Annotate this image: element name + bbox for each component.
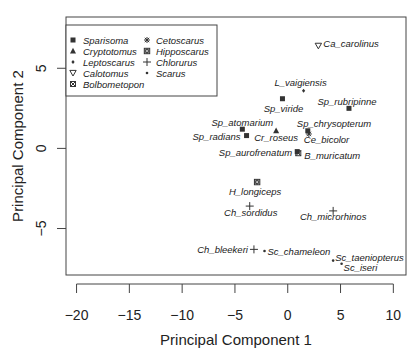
point-label: Ch_sordidus bbox=[224, 207, 278, 218]
point-label: H_longiceps bbox=[229, 186, 282, 197]
x-tick-label: −20 bbox=[65, 307, 89, 323]
dot-marker-icon bbox=[263, 250, 266, 253]
filled-square-legend-icon bbox=[71, 38, 76, 43]
point-label: Sp_radians bbox=[192, 131, 240, 142]
legend-label: Cryptotomus bbox=[83, 46, 137, 57]
point-label: Sp_aurofrenatum bbox=[219, 147, 292, 158]
data-point: Ce_bicolor bbox=[304, 131, 350, 145]
data-point: Sp_aurofrenatum bbox=[219, 147, 300, 158]
point-label: L_vaigiensis bbox=[274, 77, 327, 88]
data-point: Ca_carolinus bbox=[315, 38, 379, 49]
data-point: Sc_chameleon bbox=[263, 246, 330, 257]
legend-label: Sparisoma bbox=[83, 35, 128, 46]
legend-label: Cetoscarus bbox=[156, 35, 204, 46]
x-tick-label: −5 bbox=[227, 307, 243, 323]
legend-label: Leptoscarus bbox=[83, 57, 135, 68]
dot-legend-icon bbox=[146, 72, 149, 75]
point-label: Sp_chrysopterum bbox=[297, 118, 372, 129]
y-tick-label: −5 bbox=[33, 220, 49, 236]
point-label: Ch_microrhinos bbox=[300, 211, 367, 222]
dot-marker-icon bbox=[340, 262, 343, 265]
legend-label: Chlorurus bbox=[156, 57, 197, 68]
point-label: Ch_bleekeri bbox=[197, 244, 249, 255]
dot-marker-icon bbox=[332, 259, 335, 262]
x-tick-label: 5 bbox=[337, 307, 345, 323]
legend-label: Hipposcarus bbox=[156, 46, 209, 57]
point-label: Sp_viride bbox=[264, 103, 304, 114]
x-tick-label: 0 bbox=[284, 307, 292, 323]
y-tick-label: 5 bbox=[33, 64, 49, 72]
point-label: Sc_iseri bbox=[344, 262, 379, 273]
y-tick-label: 0 bbox=[33, 144, 49, 152]
legend-label: Calotomus bbox=[83, 68, 129, 79]
point-label: Sp_atomarium bbox=[211, 117, 273, 128]
point-label: Cr_roseus bbox=[254, 132, 298, 143]
data-point: Sc_iseri bbox=[340, 262, 378, 273]
legend-label: Bolbometopon bbox=[83, 79, 144, 90]
x-tick-label: −10 bbox=[170, 307, 194, 323]
point-label: Ce_bicolor bbox=[304, 134, 350, 145]
point-label: Sc_chameleon bbox=[268, 246, 331, 257]
point-label: Sp_rubripinne bbox=[317, 96, 376, 107]
filled-square-marker-icon bbox=[280, 96, 285, 101]
pca-scatter-plot: −20−15−10−50510 −505 Principal Component… bbox=[0, 0, 417, 355]
filled-square-marker-icon bbox=[244, 133, 249, 138]
asterisk-legend-icon bbox=[144, 37, 150, 43]
legend-label: Scarus bbox=[156, 68, 186, 79]
point-label: Ca_carolinus bbox=[323, 38, 379, 49]
y-axis-title: Principal Component 2 bbox=[9, 70, 26, 222]
x-axis-title: Principal Component 1 bbox=[160, 331, 312, 348]
x-tick-label: 10 bbox=[386, 307, 402, 323]
point-label: B_muricatum bbox=[304, 150, 360, 161]
legend: SparisomaCryptotomusLeptoscarusCalotomus… bbox=[66, 25, 217, 96]
data-point: B_muricatum bbox=[296, 150, 361, 161]
x-tick-label: −15 bbox=[117, 307, 141, 323]
